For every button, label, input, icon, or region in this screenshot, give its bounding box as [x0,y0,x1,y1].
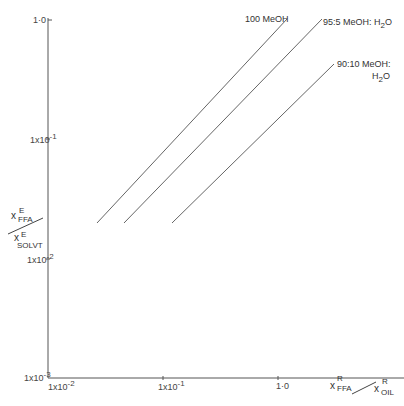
series-label-95-5: 95:5 MeOH: H2O [323,17,392,30]
series-label-90-10-line2: H2O [372,71,390,84]
series-line-100-meoh [97,19,287,223]
x-label-denominator: x [374,383,379,394]
x-tick-label-0.1: 1x10-1 [158,379,185,392]
x-tick-label-0.01: 1x10-2 [48,379,75,392]
y-label-numerator: x [11,210,16,221]
y-tick-label-0.1: 1x10-1 [30,132,57,145]
svg-text:OIL: OIL [381,388,394,397]
svg-text:E: E [21,230,26,239]
x-axis-label: x R FFA x R OIL [330,374,394,397]
chart: 1·0 1x10-1 1x10-2 1x10-3 1x10-2 1x10-1 1… [0,0,404,406]
y-tick-label-0.01: 1x10-2 [27,252,54,265]
series-label-90-10-line1: 90:10 MeOH: [337,59,391,69]
y-tick-label-1: 1·0 [33,15,46,25]
series-label-100-meoh: 100 MeOH [245,14,289,24]
series-line-90-10-meoh-h2o [172,64,334,223]
x-label-fraction-bar [352,382,376,394]
svg-text:R: R [337,374,343,383]
x-tick-label-1: 1·0 [276,381,289,391]
svg-text:FFA: FFA [337,384,352,393]
series-line-95-5-meoh-h2o [124,19,322,223]
y-axis-label: x E FFA x E SOLVT [8,206,43,250]
svg-text:E: E [19,206,24,215]
svg-text:SOLVT: SOLVT [17,241,43,250]
svg-text:R: R [382,377,388,386]
svg-text:FFA: FFA [18,215,33,224]
x-label-numerator: x [330,380,335,391]
